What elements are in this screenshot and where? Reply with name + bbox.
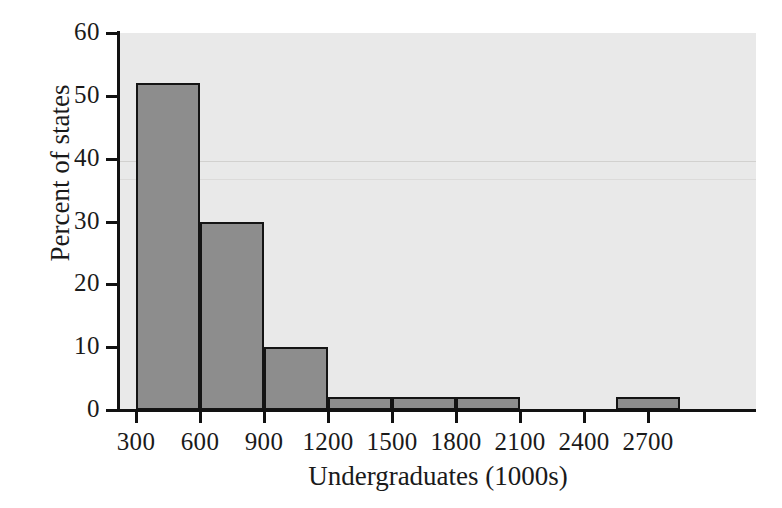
x-axis-tick — [263, 410, 266, 423]
scan-artifact-streak — [120, 161, 756, 162]
x-axis-tick-label: 2700 — [603, 428, 693, 456]
x-axis-tick — [391, 410, 394, 423]
y-axis-tick — [106, 158, 118, 161]
y-axis-tick-label: 0 — [0, 396, 100, 421]
x-axis-tick — [135, 410, 138, 423]
x-axis-line — [117, 409, 756, 412]
y-axis-tick — [106, 32, 118, 35]
scan-artifact-streak-secondary — [120, 179, 756, 180]
histogram-bar — [200, 222, 264, 411]
histogram-bar — [264, 347, 328, 410]
x-axis-title: Undergraduates (1000s) — [120, 460, 756, 492]
y-axis-title: Percent of states — [45, 43, 75, 303]
histogram-figure: 0102030405060 30060090012001500180021002… — [0, 0, 782, 508]
plot-area — [120, 33, 756, 410]
y-axis-tick — [106, 409, 118, 412]
histogram-bar — [136, 83, 200, 410]
x-axis-tick — [583, 410, 586, 423]
y-axis-tick — [106, 283, 118, 286]
y-axis-tick — [106, 95, 118, 98]
x-axis-tick — [199, 410, 202, 423]
y-axis-tick-label: 10 — [0, 333, 100, 358]
y-axis-tick — [106, 346, 118, 349]
x-axis-tick — [519, 410, 522, 423]
y-axis-tick-label: 60 — [0, 19, 100, 44]
x-axis-tick — [327, 410, 330, 423]
x-axis-tick — [455, 410, 458, 423]
x-axis-tick — [647, 410, 650, 423]
y-axis-tick — [106, 221, 118, 224]
